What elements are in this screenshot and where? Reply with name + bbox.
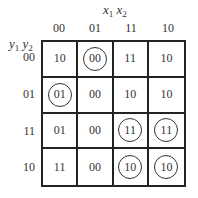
cell-value: 11: [54, 160, 66, 175]
cell-value: 00: [89, 160, 101, 175]
circled-stable-state: 11: [118, 118, 142, 142]
row-header: 10: [9, 160, 35, 175]
cell-value: 01: [54, 123, 66, 138]
col-header: 01: [77, 21, 113, 36]
y-var: y: [9, 36, 15, 51]
map-cell: 10: [43, 42, 78, 78]
map-cell: 01: [43, 78, 78, 114]
map-cell: 00: [78, 114, 113, 150]
map-cell: 10: [114, 78, 149, 114]
circled-stable-state: 01: [48, 83, 72, 107]
map-cell: 00: [78, 42, 113, 78]
circled-stable-state: 00: [83, 47, 107, 71]
cell-value: 10: [124, 87, 136, 102]
col-header: 10: [150, 21, 186, 36]
cell-value: 11: [124, 51, 136, 66]
cell-value: 10: [160, 51, 172, 66]
cell-value: 10: [160, 87, 172, 102]
map-cell: 11: [114, 114, 149, 150]
x-sub: 2: [122, 9, 127, 19]
karnaugh-map-grid: 10001110010010100100111111001010: [41, 40, 186, 187]
row-header: 01: [9, 87, 35, 102]
map-cell: 10: [149, 149, 184, 185]
circled-stable-state: 10: [154, 155, 178, 179]
map-cell: 01: [43, 114, 78, 150]
x-var: x: [103, 2, 109, 17]
circled-stable-state: 10: [118, 155, 142, 179]
map-cell: 10: [149, 42, 184, 78]
map-cell: 00: [78, 149, 113, 185]
cell-value: 00: [89, 123, 101, 138]
map-cell: 11: [114, 42, 149, 78]
row-header: 11: [9, 124, 35, 139]
circled-stable-state: 11: [154, 118, 178, 142]
column-variables-label: x1 x2: [103, 2, 127, 18]
map-cell: 11: [43, 149, 78, 185]
col-header: 00: [41, 21, 77, 36]
map-cell: 10: [114, 149, 149, 185]
row-header: 00: [9, 50, 35, 65]
cell-value: 00: [89, 87, 101, 102]
map-cell: 00: [78, 78, 113, 114]
cell-value: 10: [54, 51, 66, 66]
map-cell: 10: [149, 78, 184, 114]
x-sub: 1: [109, 9, 114, 19]
col-header: 11: [113, 21, 149, 36]
map-cell: 11: [149, 114, 184, 150]
